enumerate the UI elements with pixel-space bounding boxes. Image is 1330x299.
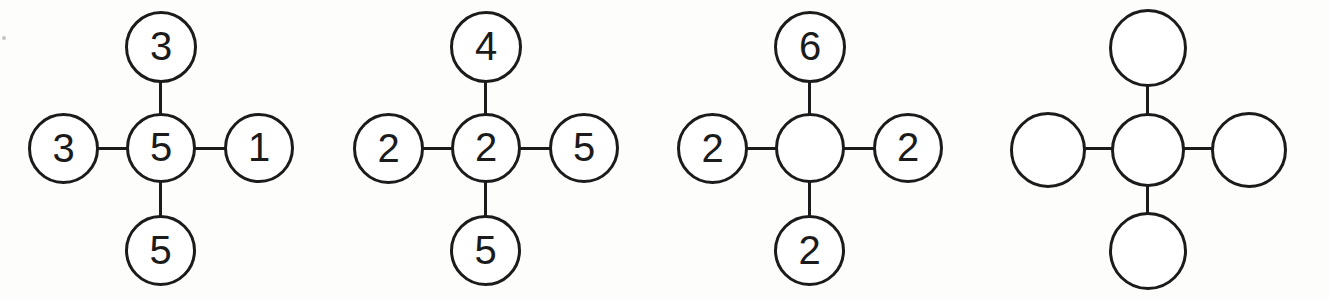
node-top-value: 3 — [150, 26, 172, 66]
node-top[interactable]: 3 — [125, 11, 197, 83]
node-bottom[interactable]: 5 — [450, 215, 521, 286]
node-right[interactable]: 5 — [549, 113, 619, 183]
node-right[interactable]: 2 — [873, 113, 943, 183]
node-top[interactable] — [1109, 9, 1187, 87]
node-top-value: 4 — [475, 26, 497, 66]
node-top[interactable]: 4 — [450, 11, 522, 83]
paper-speck-artifact — [2, 36, 6, 40]
node-right-value: 2 — [897, 127, 919, 167]
node-top[interactable]: 6 — [774, 11, 846, 83]
node-top-value: 6 — [799, 26, 821, 66]
node-center[interactable] — [1111, 113, 1185, 187]
cross-diagram-1: 3 3 5 1 5 — [11, 0, 311, 299]
node-center-value: 2 — [475, 127, 497, 167]
node-center[interactable]: 5 — [126, 113, 196, 183]
node-left-value: 2 — [377, 128, 399, 168]
cross-diagram-3: 6 2 2 2 — [660, 0, 960, 299]
node-left-value: 2 — [701, 128, 723, 168]
node-bottom-value: 5 — [149, 230, 171, 270]
node-center[interactable]: 2 — [451, 113, 521, 183]
node-bottom-value: 2 — [798, 230, 820, 270]
node-left[interactable]: 2 — [353, 113, 424, 184]
node-center-value: 5 — [150, 127, 172, 167]
node-bottom[interactable]: 5 — [125, 215, 196, 286]
node-left-value: 3 — [52, 128, 74, 168]
cross-diagram-2: 4 2 2 5 5 — [336, 0, 636, 299]
node-left[interactable]: 2 — [677, 113, 748, 184]
cross-diagram-4 — [998, 0, 1298, 299]
worksheet-canvas: 3 3 5 1 5 4 2 2 5 5 — [0, 0, 1330, 299]
node-bottom[interactable]: 2 — [774, 215, 845, 286]
node-bottom-value: 5 — [474, 230, 496, 270]
edge-center-to-left — [1082, 147, 1114, 150]
edge-center-to-bottom — [159, 180, 162, 220]
node-right[interactable] — [1211, 112, 1287, 188]
node-right[interactable]: 1 — [224, 113, 294, 183]
node-right-value: 5 — [573, 127, 595, 167]
node-left[interactable] — [1010, 112, 1086, 188]
edge-center-to-right — [1182, 147, 1214, 150]
node-center[interactable] — [775, 113, 845, 183]
node-right-value: 1 — [248, 127, 270, 167]
node-left[interactable]: 3 — [28, 113, 99, 184]
edge-center-to-bottom — [484, 180, 487, 220]
edge-center-to-bottom — [808, 180, 811, 220]
node-bottom[interactable] — [1109, 212, 1187, 290]
